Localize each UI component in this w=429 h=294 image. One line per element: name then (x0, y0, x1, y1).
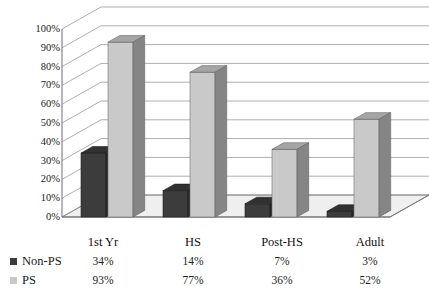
bar-ps-3 (354, 113, 391, 217)
table-cell: 52% (327, 271, 413, 290)
table-header-cell: 1st Yr (60, 233, 146, 252)
legend-swatch-non-ps (10, 258, 17, 265)
table-cell: 7% (239, 252, 325, 271)
legend-swatch-ps (10, 277, 17, 284)
table-cell: 93% (60, 271, 146, 290)
legend-label-non-ps: Non-PS (22, 252, 62, 271)
table-header-cell: Adult (327, 233, 413, 252)
table-cell: 34% (60, 252, 146, 271)
table-cell: 3% (327, 252, 413, 271)
table-row: PS 93% 77% 36% 52% (0, 271, 429, 290)
chart-canvas (0, 0, 429, 240)
table-cell: 14% (150, 252, 236, 271)
table-header-row: 1st Yr HS Post-HS Adult (0, 233, 429, 252)
plot-area: 100% 90% 80% 70% 60% 50% 40% 30% 20% 10%… (0, 0, 429, 240)
table-header-cell: Post-HS (239, 233, 325, 252)
chart-svg (0, 0, 429, 240)
data-table: 1st Yr HS Post-HS Adult Non-PS 34% 14% 7… (0, 233, 429, 294)
table-row: Non-PS 34% 14% 7% 3% (0, 252, 429, 271)
chart-container: 100% 90% 80% 70% 60% 50% 40% 30% 20% 10%… (0, 0, 429, 294)
legend-label-ps: PS (22, 271, 36, 290)
bar-ps-2 (272, 143, 309, 217)
table-cell: 36% (239, 271, 325, 290)
bar-ps-0 (108, 36, 145, 217)
table-cell: 77% (150, 271, 236, 290)
table-header-cell: HS (150, 233, 236, 252)
bar-ps-1 (190, 66, 227, 217)
